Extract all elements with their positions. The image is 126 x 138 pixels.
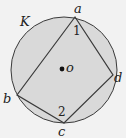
- diagram-canvas: K o a b c d 1 2: [0, 0, 126, 138]
- angle-label-1: 1: [73, 24, 81, 38]
- point-label-c: c: [58, 124, 66, 138]
- geometry-diagram: K o a b c d 1 2: [0, 0, 126, 138]
- point-label-d: d: [114, 70, 122, 85]
- circle-label-k: K: [19, 14, 31, 29]
- center-label-o: o: [66, 60, 74, 75]
- angle-label-2: 2: [58, 105, 66, 119]
- point-label-a: a: [74, 1, 82, 16]
- point-label-b: b: [3, 91, 11, 106]
- center-point: [60, 67, 65, 72]
